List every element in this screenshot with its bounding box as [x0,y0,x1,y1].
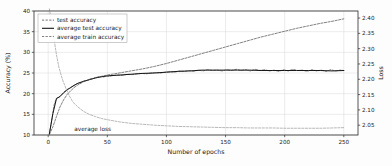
y2-axis-label: Loss [377,66,384,80]
y-tick-label: 35 [23,29,31,35]
y2-tick-label: 2.20 [362,76,375,82]
y-tick-label: 25 [23,70,31,76]
y2-tick-label: 2.40 [362,15,375,21]
y2-tick-label: 2.05 [362,122,375,128]
x-axis-label: Number of epochs [168,148,225,156]
x-tick-label: 100 [161,139,172,145]
legend-label: average train accuracy [57,34,125,41]
y2-tick-label: 2.35 [362,30,375,36]
x-tick-label: 150 [220,139,231,145]
y2-tick-label: 2.15 [362,92,375,98]
accuracy-loss-line-chart: 050100150200250 10152025303540 2.052.102… [0,0,392,166]
y-tick-label: 30 [23,49,31,55]
annotation-average-loss: average loss [74,126,111,133]
chart-annotations: average loss [74,126,111,133]
y2-tick-label: 2.25 [362,61,375,67]
x-tick-label: 250 [338,139,349,145]
y-tick-label: 10 [23,132,31,138]
y-tick-label: 15 [23,111,31,117]
x-tick-label: 0 [46,139,50,145]
y-axis-label: Accuracy (%) [4,53,12,94]
legend-label: average test accuracy [57,25,122,32]
x-tick-label: 200 [279,139,290,145]
legend-label: test accuracy [57,17,97,24]
y2-tick-label: 2.10 [362,107,375,113]
x-tick-label: 50 [104,139,112,145]
chart-legend: test accuracyaverage test accuracyaverag… [38,14,127,43]
y-tick-label: 40 [23,8,31,14]
y-tick-label: 20 [23,91,31,97]
chart-figure: 050100150200250 10152025303540 2.052.102… [0,0,392,166]
y2-tick-label: 2.30 [362,46,375,52]
